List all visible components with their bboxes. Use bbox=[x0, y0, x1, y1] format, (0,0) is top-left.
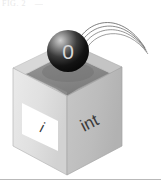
ball-label: 0 bbox=[62, 40, 74, 63]
value-ball: 0 bbox=[42, 30, 94, 82]
figure-canvas: FIG. 2— bbox=[0, 0, 161, 187]
motion-arc-4 bbox=[84, 34, 148, 54]
diagram-svg: i int 0 bbox=[0, 0, 161, 187]
